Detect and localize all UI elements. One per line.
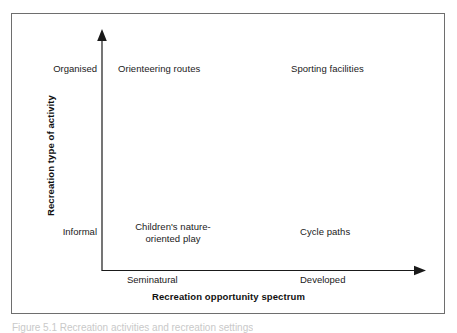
- quadrant-label-bottom-right: Cycle paths: [300, 226, 350, 238]
- quadrant-label-bottom-left-line1: Children's nature-: [135, 221, 211, 232]
- x-tick-label-developed: Developed: [300, 274, 345, 285]
- x-axis-title: Recreation opportunity spectrum: [0, 291, 457, 302]
- y-tick-label-organised: Organised: [22, 63, 97, 74]
- figure-caption: Figure 5.1 Recreation activities and rec…: [12, 322, 253, 333]
- figure-container: Orienteering routes Sporting facilities …: [0, 0, 457, 333]
- quadrant-label-bottom-left-line2: oriented play: [145, 233, 200, 244]
- x-tick-label-seminatural: Seminatural: [127, 274, 178, 285]
- y-axis-title: Recreation type of activity: [45, 76, 56, 236]
- quadrant-label-top-left: Orienteering routes: [118, 63, 200, 75]
- figure-frame: [11, 13, 445, 314]
- quadrant-label-top-right: Sporting facilities: [291, 63, 364, 75]
- y-tick-label-informal: Informal: [22, 226, 97, 237]
- quadrant-label-bottom-left: Children's nature- oriented play: [118, 221, 228, 244]
